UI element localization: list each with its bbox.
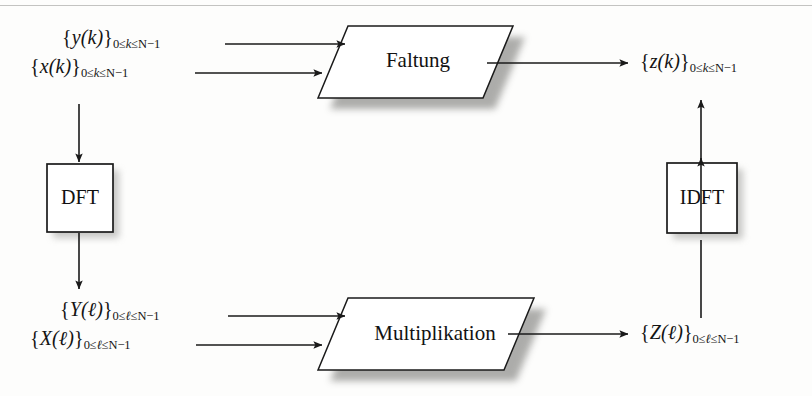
range-prefix: 0≤: [81, 66, 94, 80]
brace-close: }: [74, 327, 84, 349]
label-Z-freq-signal: {Z(ℓ)}0≤ℓ≤N−1: [640, 321, 739, 347]
range-prefix: 0≤: [113, 37, 126, 51]
index-range: 0≤k≤N−1: [113, 37, 160, 51]
range-prefix: 0≤: [690, 61, 703, 75]
index-range: 0≤k≤N−1: [690, 61, 737, 75]
figure-canvas: {y(k)}0≤k≤N−1 {x(k)}0≤k≤N−1 {z(k)}0≤k≤N−…: [0, 0, 812, 396]
range-suffix: ≤N−1: [708, 61, 737, 75]
range-suffix: ≤N−1: [131, 309, 160, 323]
signal-arg: ℓ: [88, 298, 96, 320]
arg-open: (: [81, 298, 88, 320]
brace-open: {: [30, 327, 40, 349]
signal-name: Z: [650, 321, 661, 343]
index-range: 0≤k≤N−1: [81, 66, 128, 80]
brace-open: {: [62, 26, 72, 48]
arg-close: ): [67, 327, 74, 349]
arg-close: ): [96, 298, 103, 320]
signal-name: z: [650, 50, 658, 72]
index-range: 0≤ℓ≤N−1: [113, 309, 160, 323]
signal-arg: ℓ: [59, 327, 67, 349]
signal-name: X: [40, 327, 52, 349]
signal-name: y: [72, 26, 81, 48]
arg-close: ): [676, 321, 683, 343]
brace-open: {: [640, 50, 650, 72]
signal-arg: ℓ: [668, 321, 676, 343]
range-suffix: ≤N−1: [711, 332, 740, 346]
index-range: 0≤ℓ≤N−1: [693, 332, 740, 346]
dft-box-label: DFT: [47, 186, 113, 209]
brace-close: }: [71, 55, 81, 77]
brace-open: {: [640, 321, 650, 343]
label-y-time-signal: {y(k)}0≤k≤N−1: [62, 26, 160, 52]
arg-open: (: [661, 321, 668, 343]
label-z-time-signal: {z(k)}0≤k≤N−1: [640, 50, 737, 76]
range-suffix: ≤N−1: [131, 37, 160, 51]
arg-open: (: [52, 327, 59, 349]
signal-name: x: [40, 55, 49, 77]
brace-close: }: [103, 26, 113, 48]
multiplication-node-label: Multiplikation: [345, 321, 525, 346]
signal-arg: k: [664, 50, 673, 72]
index-range: 0≤ℓ≤N−1: [84, 338, 131, 352]
brace-open: {: [30, 55, 40, 77]
signal-name: Y: [70, 298, 81, 320]
range-prefix: 0≤: [693, 332, 706, 346]
range-suffix: ≤N−1: [99, 66, 128, 80]
brace-open: {: [60, 298, 70, 320]
range-prefix: 0≤: [84, 338, 97, 352]
label-X-freq-signal: {X(ℓ)}0≤ℓ≤N−1: [30, 327, 131, 353]
brace-close: }: [680, 50, 690, 72]
range-prefix: 0≤: [113, 309, 126, 323]
idft-box-label: IDFT: [667, 186, 737, 209]
range-suffix: ≤N−1: [102, 338, 131, 352]
label-x-time-signal: {x(k)}0≤k≤N−1: [30, 55, 128, 81]
label-Y-freq-signal: {Y(ℓ)}0≤ℓ≤N−1: [60, 298, 159, 324]
convolution-node-label: Faltung: [358, 48, 478, 73]
brace-close: }: [103, 298, 113, 320]
brace-close: }: [683, 321, 693, 343]
